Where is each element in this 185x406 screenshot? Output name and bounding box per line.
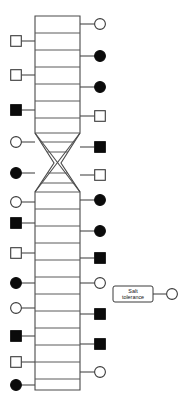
- marker-filled-square-icon-L11[interactable]: [11, 331, 22, 342]
- marker-open-circle-icon-L10[interactable]: [11, 303, 22, 314]
- marker-open-circle-icon-R10[interactable]: [95, 278, 106, 289]
- linkage-map-canvas: Salt tolerance: [0, 0, 185, 406]
- marker-filled-circle-icon-R3[interactable]: [95, 82, 106, 93]
- marker-open-square-icon-R6[interactable]: [95, 170, 106, 181]
- marker-open-square-icon-R4[interactable]: [95, 111, 106, 122]
- marker-open-square-icon-L12[interactable]: [11, 357, 22, 368]
- marker-filled-square-icon-R5[interactable]: [95, 142, 106, 153]
- marker-filled-square-icon-R9[interactable]: [95, 253, 106, 264]
- marker-filled-circle-icon-L9[interactable]: [11, 278, 22, 289]
- marker-filled-square-icon-R12[interactable]: [95, 339, 106, 350]
- chromosome-outline: [35, 16, 80, 390]
- marker-open-square-icon-L2[interactable]: [11, 70, 22, 81]
- trait-label-line2: tolerance: [122, 294, 144, 300]
- crossover-icon: [35, 133, 80, 192]
- marker-filled-circle-icon-R8[interactable]: [95, 226, 106, 237]
- chromosome-body: [35, 16, 80, 390]
- trait-terminal-open-circle-icon: [167, 289, 178, 300]
- marker-open-circle-icon-R13[interactable]: [95, 367, 106, 378]
- marker-open-circle-icon-L6[interactable]: [11, 197, 22, 208]
- marker-filled-circle-icon-R2[interactable]: [95, 51, 106, 62]
- marker-filled-circle-icon-L5[interactable]: [11, 168, 22, 179]
- marker-filled-square-icon-L3[interactable]: [11, 105, 22, 116]
- marker-open-circle-icon-L4[interactable]: [11, 137, 22, 148]
- trait-label-line1: Salt: [128, 288, 138, 294]
- marker-open-square-icon-L8[interactable]: [11, 248, 22, 259]
- marker-filled-circle-icon-R7[interactable]: [95, 195, 106, 206]
- left-marker-column: [11, 36, 35, 391]
- marker-filled-circle-icon-L13[interactable]: [11, 380, 22, 391]
- marker-open-square-icon-L1[interactable]: [11, 36, 22, 47]
- marker-open-circle-icon-R1[interactable]: [95, 19, 106, 30]
- marker-filled-square-icon-L7[interactable]: [11, 218, 22, 229]
- marker-filled-square-icon-R11[interactable]: [95, 309, 106, 320]
- salt-tolerance-annotation[interactable]: Salt tolerance: [113, 286, 177, 302]
- right-marker-column: [80, 19, 105, 378]
- linkage-map-diagram: Salt tolerance: [0, 0, 185, 406]
